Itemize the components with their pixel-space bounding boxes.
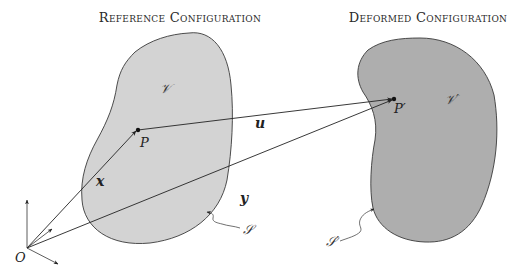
surface-ref-leader — [207, 212, 240, 228]
position-y-label: y — [239, 190, 249, 206]
deformed-body — [358, 38, 497, 242]
point-p-prime-label: P′ — [393, 101, 406, 116]
displacement-label: u — [255, 115, 265, 131]
deformed-configuration-title: Deformed Configuration — [349, 10, 508, 25]
point-p-label: P — [139, 135, 149, 150]
reference-configuration-title: Reference Configuration — [99, 10, 261, 25]
reference-body — [82, 33, 233, 244]
position-x-label: x — [95, 173, 105, 189]
volume-def-label: 𝒱′ — [445, 92, 460, 107]
point-p-marker — [136, 128, 140, 132]
surface-def-label: 𝒮′ — [326, 234, 340, 249]
surface-ref-label: 𝒮 — [243, 222, 257, 237]
surface-def-leader — [340, 209, 374, 241]
origin-label: O — [15, 250, 26, 265]
continuum-deformation-diagram: Reference Configuration Deformed Configu… — [0, 0, 514, 274]
